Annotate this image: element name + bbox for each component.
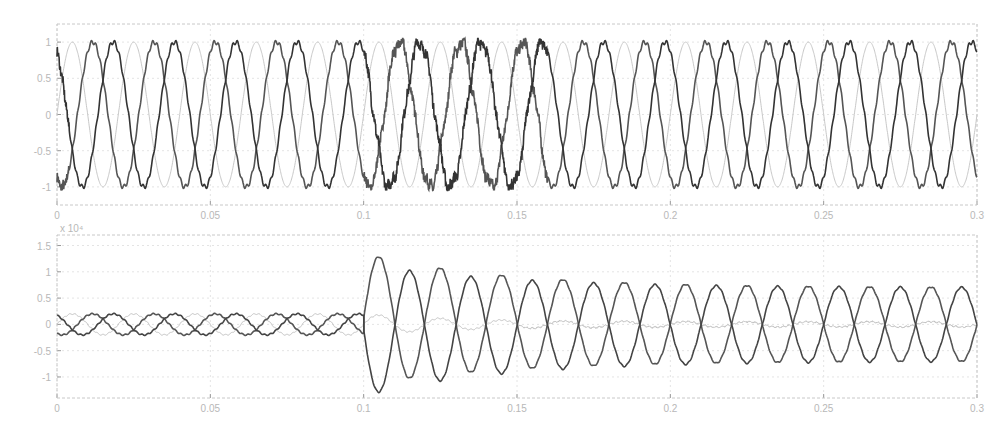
x-tick-label: 0.3 (970, 403, 984, 414)
x-tick-label: 0.1 (357, 210, 371, 221)
y-tick-label: -1 (42, 372, 51, 383)
x-tick-label: 0.1 (357, 403, 371, 414)
chart-canvas: 00.050.10.150.20.250.310.50-0.5-1 00.050… (0, 0, 1007, 438)
top-voltage-plot: 00.050.10.150.20.250.310.50-0.5-1 (34, 24, 985, 221)
x-tick-label: 0.2 (663, 403, 677, 414)
x-tick-label: 0 (54, 210, 60, 221)
x-tick-label: 0.25 (814, 210, 834, 221)
y-tick-label: -1 (42, 182, 51, 193)
y-tick-label: -0.5 (34, 346, 52, 357)
y-exponent-label: x 10⁴ (60, 223, 83, 234)
y-tick-label: 0.5 (37, 293, 51, 304)
y-tick-label: 0 (45, 110, 51, 121)
x-tick-label: 0.15 (507, 403, 527, 414)
y-tick-label: 1 (45, 37, 51, 48)
bottom-current-plot: 00.050.10.150.20.250.31.510.50-0.5-1x 10… (34, 223, 985, 414)
y-tick-label: -0.5 (34, 146, 52, 157)
y-tick-label: 1 (45, 267, 51, 278)
x-tick-label: 0.3 (970, 210, 984, 221)
x-tick-label: 0 (54, 403, 60, 414)
y-tick-label: 0 (45, 319, 51, 330)
x-tick-label: 0.05 (201, 210, 221, 221)
x-tick-label: 0.25 (814, 403, 834, 414)
x-tick-label: 0.05 (201, 403, 221, 414)
x-tick-label: 0.15 (507, 210, 527, 221)
x-tick-label: 0.2 (663, 210, 677, 221)
y-tick-label: 0.5 (37, 73, 51, 84)
y-tick-label: 1.5 (37, 241, 51, 252)
